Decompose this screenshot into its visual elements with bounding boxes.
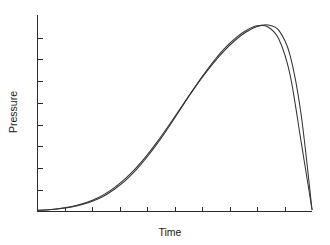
- y-axis-title: Pressure: [7, 91, 19, 133]
- chart-figure: Time Pressure: [0, 0, 330, 245]
- chart-background: [0, 0, 330, 245]
- pressure-time-line-chart: Time Pressure: [0, 0, 330, 245]
- x-axis-title: Time: [159, 226, 182, 238]
